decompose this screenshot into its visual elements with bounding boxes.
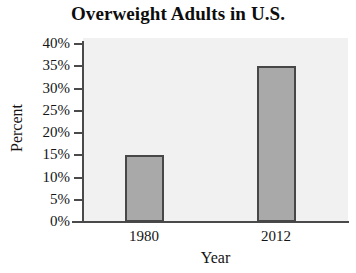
y-tick-label: 5%	[22, 192, 70, 207]
bar-1980	[125, 155, 164, 222]
plot-area	[83, 38, 348, 222]
bar-2012	[257, 66, 296, 222]
y-tick-label: 10%	[22, 170, 70, 185]
y-tick-label: 35%	[22, 58, 70, 73]
y-tick-label: 15%	[22, 147, 70, 162]
x-tick-label-1980: 1980	[104, 228, 184, 245]
y-tick-label: 30%	[22, 81, 70, 96]
y-tick-label: 25%	[22, 103, 70, 118]
y-tick-label: 0%	[22, 214, 70, 229]
y-tick-mark	[74, 221, 83, 223]
bar-chart: Overweight Adults in U.S. Percent 0%5%10…	[0, 0, 356, 273]
y-tick-mark	[74, 65, 83, 67]
y-tick-mark	[74, 199, 83, 201]
y-tick-mark	[74, 43, 83, 45]
y-tick-mark	[74, 88, 83, 90]
y-tick-mark	[74, 132, 83, 134]
x-axis-line	[72, 221, 349, 223]
y-tick-mark	[74, 154, 83, 156]
y-tick-label: 20%	[22, 125, 70, 140]
chart-title: Overweight Adults in U.S.	[0, 3, 356, 25]
x-tick-label-2012: 2012	[236, 228, 316, 245]
y-tick-label: 40%	[22, 36, 70, 51]
x-axis-label: Year	[83, 249, 348, 267]
y-tick-mark	[74, 177, 83, 179]
y-tick-mark	[74, 110, 83, 112]
